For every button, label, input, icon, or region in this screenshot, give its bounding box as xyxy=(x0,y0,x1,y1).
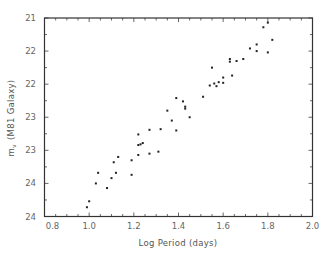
data-point xyxy=(229,58,231,60)
y-axis-title: mv(M81 Galaxy) xyxy=(6,80,17,157)
plot-frame xyxy=(45,18,313,217)
data-point xyxy=(131,159,133,161)
y-tick-label: 24 xyxy=(25,178,36,188)
data-point xyxy=(267,51,269,53)
data-point xyxy=(140,143,142,145)
data-point xyxy=(209,84,211,86)
data-point xyxy=(242,58,244,60)
y-tick-labels: 21222223232424 xyxy=(25,13,36,222)
data-point xyxy=(113,161,115,163)
data-point xyxy=(184,108,186,110)
data-point xyxy=(182,100,184,102)
data-point xyxy=(256,43,258,45)
x-tick-label: 1.8 xyxy=(261,221,275,231)
data-point xyxy=(117,156,119,158)
data-points xyxy=(86,22,273,209)
data-point xyxy=(160,128,162,130)
x-tick-label: 2.0 xyxy=(306,221,320,231)
data-point xyxy=(236,60,238,62)
svg-text:mv(M81 Galaxy): mv(M81 Galaxy) xyxy=(6,80,17,157)
data-point xyxy=(137,133,139,135)
data-point xyxy=(218,81,220,83)
x-tick-label: 1.2 xyxy=(127,221,141,231)
data-point xyxy=(97,172,99,174)
data-point xyxy=(86,206,88,208)
x-tick-labels: 0.81.01.21.41.61.82.0 xyxy=(46,221,320,231)
data-point xyxy=(267,22,269,24)
x-tick-label: 0.8 xyxy=(46,221,60,231)
data-point xyxy=(166,110,168,112)
data-point xyxy=(175,97,177,99)
data-point xyxy=(137,144,139,146)
data-point xyxy=(262,26,264,28)
data-point xyxy=(222,77,224,79)
data-point xyxy=(229,61,231,63)
y-tick-label: 22 xyxy=(25,46,36,56)
data-point xyxy=(175,129,177,131)
y-tick-label: 22 xyxy=(25,79,36,89)
data-point xyxy=(184,106,186,108)
data-point xyxy=(171,120,173,122)
data-point xyxy=(211,67,213,69)
data-point xyxy=(142,142,144,144)
data-point xyxy=(213,83,215,85)
data-point xyxy=(215,85,217,87)
x-tick-label: 1.6 xyxy=(216,221,230,231)
data-point xyxy=(202,96,204,98)
data-point xyxy=(111,177,113,179)
data-point xyxy=(88,200,90,202)
data-point xyxy=(106,187,108,189)
data-point xyxy=(222,82,224,84)
data-point xyxy=(95,182,97,184)
axis-ticks xyxy=(45,18,313,217)
data-point xyxy=(231,75,233,77)
data-point xyxy=(249,47,251,49)
y-tick-label: 23 xyxy=(25,145,36,155)
y-axis-title-main: m xyxy=(6,148,16,157)
data-point xyxy=(137,154,139,156)
y-axis-title-subscript: v xyxy=(10,144,17,148)
data-point xyxy=(148,129,150,131)
data-point xyxy=(131,174,133,176)
x-tick-label: 1.4 xyxy=(172,221,186,231)
data-point xyxy=(157,151,159,153)
y-tick-label: 21 xyxy=(25,13,36,23)
y-tick-label: 23 xyxy=(25,112,36,122)
data-point xyxy=(148,153,150,155)
y-axis-title-rest: (M81 Galaxy) xyxy=(6,80,16,141)
x-axis-title: Log Period (days) xyxy=(139,238,218,248)
data-point xyxy=(115,172,117,174)
x-tick-label: 1.0 xyxy=(82,221,96,231)
y-tick-label: 24 xyxy=(25,212,36,222)
data-point xyxy=(189,116,191,118)
data-point xyxy=(271,39,273,41)
data-point xyxy=(256,50,258,52)
scatter-chart: 0.81.01.21.41.61.82.0 21222223232424 Log… xyxy=(0,0,330,255)
